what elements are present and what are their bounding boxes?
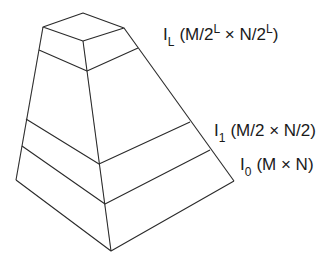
level-0-divider <box>22 146 210 204</box>
pyramid-diagram: IL(M/2L × N/2L) I1(M/2 × N/2) I0(M × N) <box>0 0 331 264</box>
pyramid-top-face <box>43 13 124 41</box>
label-level-0: I0(M × N) <box>240 155 314 179</box>
left-edge <box>16 27 43 180</box>
front-edge <box>83 41 111 251</box>
level-1-divider <box>26 119 190 164</box>
level-L-divider <box>39 48 138 71</box>
base-edge <box>16 180 234 251</box>
label-level-L: IL(M/2L × N/2L) <box>163 22 278 49</box>
label-level-1: I1(M/2 × N/2) <box>214 121 316 145</box>
right-edge <box>124 28 234 181</box>
